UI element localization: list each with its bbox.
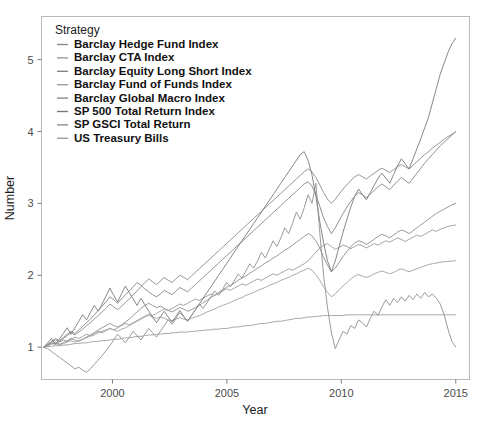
chart-background bbox=[0, 0, 494, 425]
legend-item-label: US Treasury Bills bbox=[74, 132, 169, 144]
y-tick-label: 1 bbox=[27, 341, 33, 353]
legend-item-label: Barclay Equity Long Short Index bbox=[74, 65, 252, 77]
chart-container: 2000200520102015 12345 Year Number Strat… bbox=[0, 0, 494, 425]
y-tick-label: 4 bbox=[27, 126, 33, 138]
x-tick-label: 2000 bbox=[100, 387, 124, 399]
legend-item-label: SP 500 Total Return Index bbox=[74, 105, 215, 117]
legend-item-label: Barclay Global Macro Index bbox=[74, 92, 225, 104]
x-tick-label: 2005 bbox=[215, 387, 239, 399]
x-axis-title: Year bbox=[242, 403, 267, 417]
line-chart: 2000200520102015 12345 Year Number Strat… bbox=[0, 0, 494, 425]
y-tick-label: 5 bbox=[27, 54, 33, 66]
x-tick-label: 2015 bbox=[444, 387, 468, 399]
legend-title: Strategy bbox=[55, 23, 100, 37]
y-tick-label: 3 bbox=[27, 197, 33, 209]
y-tick-label: 2 bbox=[27, 269, 33, 281]
legend-item-label: SP GSCI Total Return bbox=[74, 118, 191, 130]
y-axis-title: Number bbox=[3, 176, 17, 220]
legend-item-label: Barclay Fund of Funds Index bbox=[74, 78, 232, 90]
legend-item-label: Barclay CTA Index bbox=[74, 51, 175, 63]
legend-item-label: Barclay Hedge Fund Index bbox=[74, 38, 219, 50]
x-tick-label: 2010 bbox=[329, 387, 353, 399]
